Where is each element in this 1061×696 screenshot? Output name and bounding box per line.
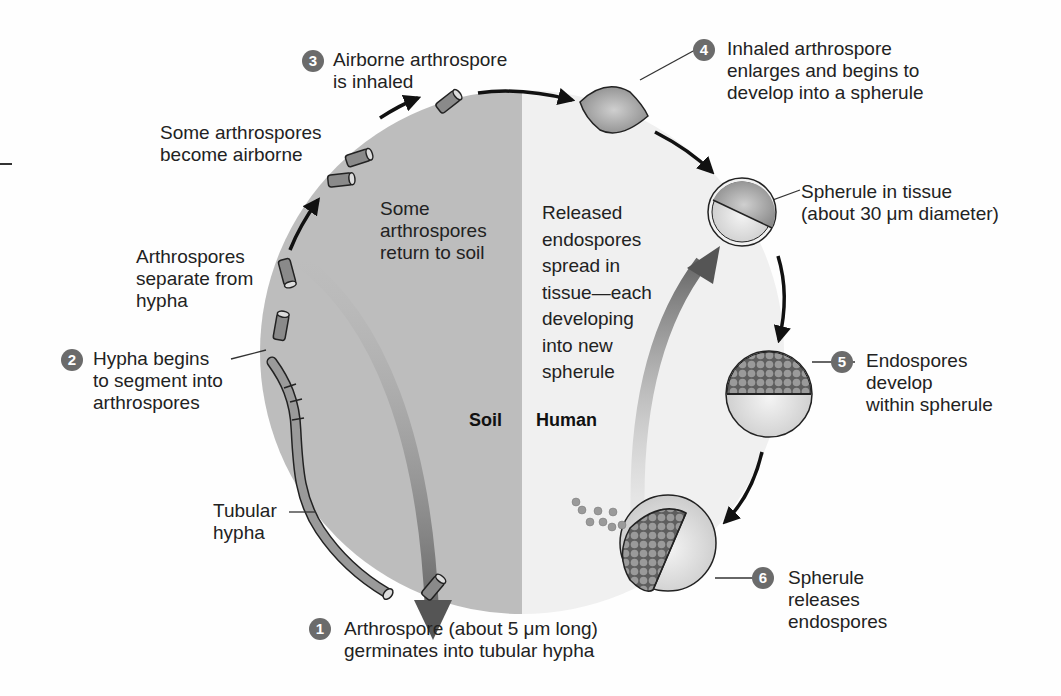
step-2-label: Hypha begins to segment into arthrospore… xyxy=(93,348,223,414)
spherule-in-tissue xyxy=(708,178,776,246)
soil-label: Soil xyxy=(469,409,502,431)
spherule-tissue-label: Spherule in tissue (about 30 μm diameter… xyxy=(801,181,999,225)
step-badge-4: 4 xyxy=(693,39,715,61)
tubular-hypha-label: Tubular hypha xyxy=(213,500,277,544)
step-4-label: Inhaled arthrospore enlarges and begins … xyxy=(727,38,923,104)
step-badge-3: 3 xyxy=(302,50,324,72)
return-soil-label: Some arthrospores return to soil xyxy=(380,198,487,264)
step-5-label: Endospores develop within spherule xyxy=(866,350,993,416)
step-1-label: Arthrospore (about 5 μm long) germinates… xyxy=(344,618,598,662)
step-badge-5: 5 xyxy=(831,351,853,373)
step-6-label: Spherule releases endospores xyxy=(788,567,887,633)
separate-label: Arthrospores separate from hypha xyxy=(136,246,253,312)
some-airborne-label: Some arthrospores become airborne xyxy=(160,122,322,166)
step-badge-2: 2 xyxy=(61,349,83,371)
step-3-label: Airborne arthrospore is inhaled xyxy=(333,49,507,93)
step-badge-6: 6 xyxy=(752,567,774,589)
step-badge-1: 1 xyxy=(309,618,331,640)
human-label: Human xyxy=(536,409,597,431)
released-endospores-label: Released endospores spread in tissue—eac… xyxy=(542,200,652,386)
spherule-endospores xyxy=(726,351,812,437)
